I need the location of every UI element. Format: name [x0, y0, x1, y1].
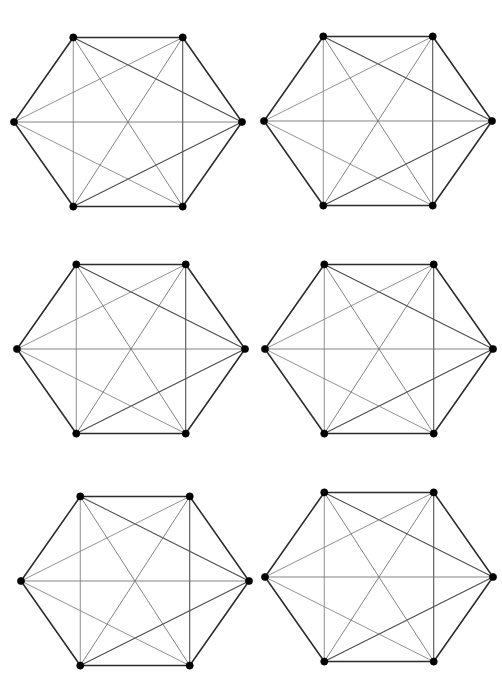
- graph-edge-perimeter: [434, 577, 493, 662]
- graph-vertex-dot: [430, 658, 437, 665]
- graph-vertex-dot: [245, 577, 252, 584]
- graph-vertex-dot: [77, 493, 84, 500]
- graph-vertex-dot: [241, 345, 248, 352]
- hexagon-graph-panel: [17, 254, 245, 444]
- graph-vertex-dot: [321, 489, 328, 496]
- hexagon-graph-svg: [264, 26, 492, 216]
- graph-edge-perimeter: [186, 349, 245, 434]
- graph-edge-perimeter: [433, 36, 492, 121]
- graph-vertex-dot: [321, 430, 328, 437]
- graph-edge-perimeter: [14, 122, 73, 207]
- graph-vertex-dot: [430, 489, 437, 496]
- graph-edge-perimeter: [265, 264, 324, 349]
- graph-edge-perimeter: [190, 581, 249, 666]
- graph-vertex-dot: [186, 662, 193, 669]
- graph-vertex-dot: [70, 34, 77, 41]
- graph-edge-perimeter: [17, 349, 76, 434]
- graph-vertex-dot: [73, 261, 80, 268]
- graph-vertex-dot: [179, 34, 186, 41]
- hexagon-graph-svg: [21, 486, 249, 676]
- graph-vertex-dot: [77, 662, 84, 669]
- graph-vertex-dot: [488, 117, 495, 124]
- hexagon-graph-panel: [264, 26, 492, 216]
- graph-vertex-dot: [321, 261, 328, 268]
- graph-vertex-dot: [489, 345, 496, 352]
- hexagon-graph-panel: [265, 254, 493, 444]
- graph-edge-perimeter: [190, 496, 249, 581]
- graph-edge-perimeter: [264, 36, 323, 121]
- graph-edge-perimeter: [21, 581, 80, 666]
- graph-vertex-dot: [13, 345, 20, 352]
- graph-vertex-dot: [321, 658, 328, 665]
- graph-vertex-dot: [429, 202, 436, 209]
- graph-vertex-dot: [260, 117, 267, 124]
- graph-vertex-dot: [320, 202, 327, 209]
- graph-vertex-dot: [73, 430, 80, 437]
- graph-edge-perimeter: [183, 122, 242, 207]
- graph-edge-perimeter: [17, 264, 76, 349]
- graph-vertex-dot: [70, 203, 77, 210]
- graph-edge-perimeter: [434, 492, 493, 577]
- graph-vertex-dot: [17, 577, 24, 584]
- graph-vertex-dot: [182, 430, 189, 437]
- graph-edge-perimeter: [433, 121, 492, 206]
- graph-vertex-dot: [179, 203, 186, 210]
- figure-sheet: [0, 0, 502, 695]
- graph-edge-perimeter: [265, 577, 324, 662]
- hexagon-graph-panel: [14, 27, 242, 217]
- graph-vertex-dot: [261, 345, 268, 352]
- graph-vertex-dot: [10, 118, 17, 125]
- graph-edge-perimeter: [264, 121, 323, 206]
- hexagon-graph-svg: [265, 482, 493, 672]
- graph-vertex-dot: [182, 261, 189, 268]
- graph-edge-perimeter: [186, 264, 245, 349]
- graph-vertex-dot: [430, 430, 437, 437]
- graph-vertex-dot: [430, 261, 437, 268]
- graph-edge-perimeter: [434, 264, 493, 349]
- graph-edge-perimeter: [14, 37, 73, 122]
- hexagon-graph-svg: [265, 254, 493, 444]
- graph-vertex-dot: [261, 573, 268, 580]
- graph-edge-perimeter: [434, 349, 493, 434]
- graph-vertex-dot: [238, 118, 245, 125]
- hexagon-graph-panel: [265, 482, 493, 672]
- graph-vertex-dot: [320, 33, 327, 40]
- graph-edge-perimeter: [265, 492, 324, 577]
- graph-vertex-dot: [186, 493, 193, 500]
- graph-edge-perimeter: [183, 37, 242, 122]
- graph-edge-perimeter: [265, 349, 324, 434]
- graph-vertex-dot: [429, 33, 436, 40]
- hexagon-graph-svg: [17, 254, 245, 444]
- graph-edge-perimeter: [21, 496, 80, 581]
- hexagon-graph-svg: [14, 27, 242, 217]
- graph-vertex-dot: [489, 573, 496, 580]
- hexagon-graph-panel: [21, 486, 249, 676]
